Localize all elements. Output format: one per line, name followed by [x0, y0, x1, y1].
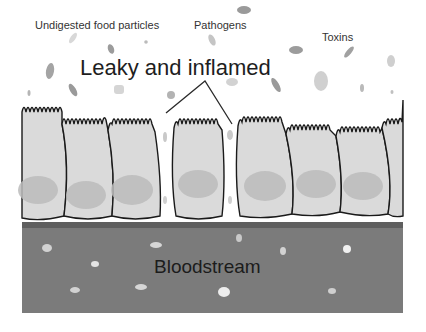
- label-leaky-and-inflamed: Leaky and inflamed: [80, 55, 271, 81]
- leaky-gut-diagram: Undigested food particles Pathogens Toxi…: [0, 0, 426, 332]
- label-bloodstream: Bloodstream: [154, 256, 261, 278]
- callout-lines: [166, 81, 232, 124]
- label-pathogens: Pathogens: [194, 19, 247, 31]
- label-undigested-food-particles: Undigested food particles: [35, 19, 159, 31]
- diagram-graphics: [0, 0, 426, 332]
- label-toxins: Toxins: [322, 31, 353, 43]
